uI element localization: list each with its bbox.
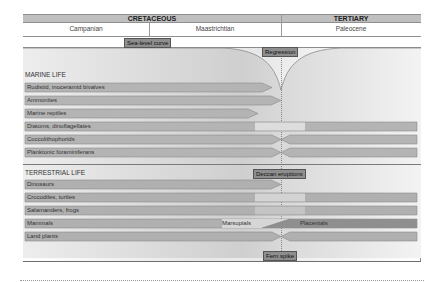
- bar-dinosaurs: [25, 180, 281, 189]
- label-dinosaurs: Dinosaurs: [27, 180, 54, 189]
- label-marsupials: Marsupials: [222, 219, 251, 228]
- label-diatoms: Diatoms, dinoflagellates: [27, 122, 91, 131]
- label-crocodiles: Crocodiles, turtles: [27, 193, 75, 202]
- terrestrial-life-title: TERRESTRIAL LIFE: [25, 169, 85, 176]
- label-forams: Planktonic foraminiferans: [27, 148, 94, 157]
- section-divider: [23, 164, 421, 165]
- bar-salamanders: [25, 206, 417, 215]
- label-coccolithophorids: Coccolithophorids: [27, 135, 75, 144]
- bar-coccolithophorids: [25, 135, 417, 144]
- fern-spike-tag: Fern spike: [263, 251, 297, 261]
- label-rudistids: Rudistid, inoceramid bivalves: [27, 83, 105, 92]
- deccan-eruptions-tag: Deccan eruptions: [253, 169, 306, 179]
- label-salamanders: Salamanders, frogs: [27, 206, 79, 215]
- bar-land-plants: [25, 232, 417, 241]
- label-placentals: Placentals: [300, 219, 328, 228]
- label-land-plants: Land plants: [27, 232, 58, 241]
- bar-ammonites: [25, 96, 281, 105]
- label-marine-reptiles: Marine reptiles: [27, 109, 66, 118]
- footer-dotted-rule: [20, 280, 424, 281]
- bar-crocodiles: [25, 193, 417, 202]
- label-mammals: Mammals: [27, 219, 53, 228]
- label-ammonites: Ammonites: [27, 96, 57, 105]
